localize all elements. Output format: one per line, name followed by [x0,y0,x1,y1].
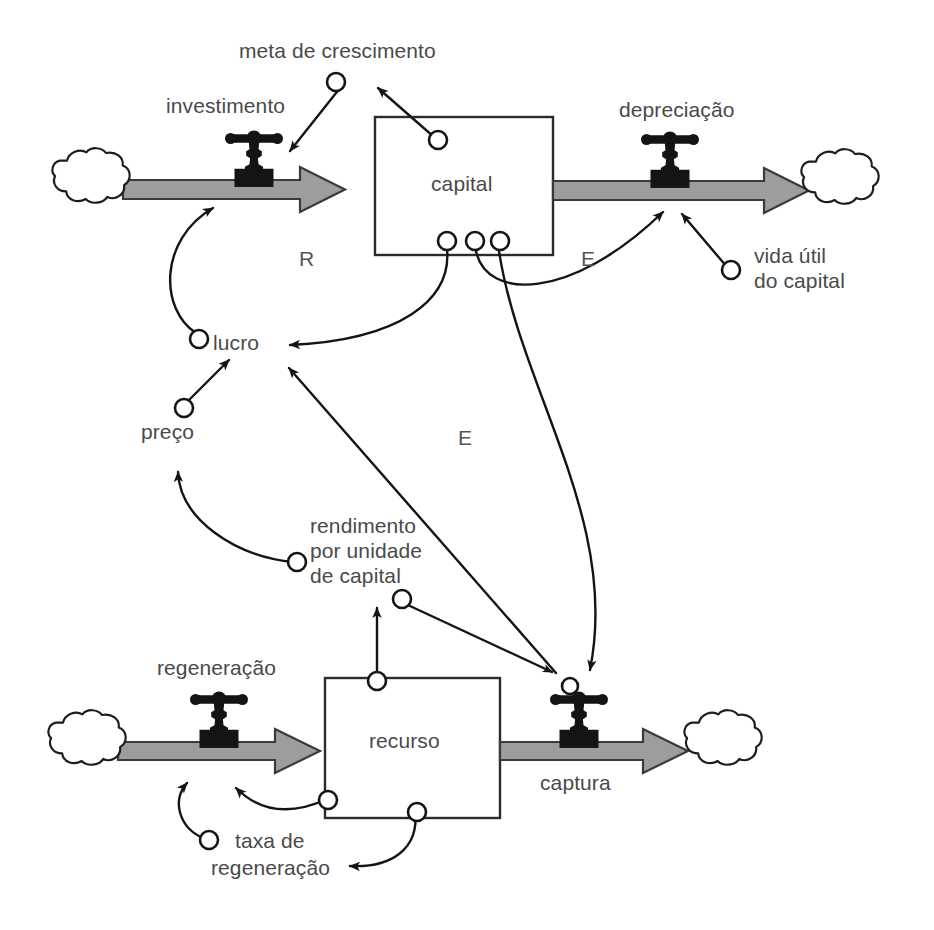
diagram-vector-layer [0,0,934,930]
label-regeneracao: regeneração [157,655,276,680]
node-taxa-de-regeneracao[interactable] [200,831,218,849]
label-rendimento-line1: rendimento [310,513,416,538]
node-preco[interactable] [175,399,193,417]
label-vida-util-do-capital-line2: do capital [754,268,845,293]
link-rendimento-to-preco [178,472,292,562]
label-rendimento-line2: por unidade [310,538,422,563]
label-vida-util-do-capital-line1: vida útil [754,243,826,268]
cloud-sink-depreciacao [801,149,878,204]
node-capital-top[interactable] [429,131,447,149]
label-taxa-de-regeneracao-line1: taxa de [235,828,305,853]
node-rendimento-capital[interactable] [393,590,411,608]
valve-regeneracao [190,691,248,748]
diagram-canvas: meta de crescimento investimento depreci… [0,0,934,930]
link-lucro-to-investimento [170,208,213,333]
link-preco-to-lucro [189,360,229,400]
link-vidautil-to-depreciacao [682,214,727,267]
link-meta-to-investimento [290,88,340,151]
node-vida-util-do-capital[interactable] [722,261,740,279]
valve-investimento [225,130,283,187]
valve-depreciacao [641,131,699,188]
node-capital-bottom-1[interactable] [438,232,456,250]
label-lucro: lucro [213,330,259,355]
label-stock-capital: capital [431,171,492,196]
node-meta-de-crescimento[interactable] [327,73,345,91]
cloud-source-regeneracao [48,710,125,765]
valve-captura [550,691,608,748]
label-investimento: investimento [166,93,285,118]
label-loop-e-middle: E [458,425,472,450]
label-taxa-de-regeneracao-line2: regeneração [211,855,330,880]
node-capital-bottom-3[interactable] [491,232,509,250]
label-captura: captura [540,770,611,795]
node-recurso-bottom-left[interactable] [319,791,337,809]
label-loop-r: R [299,246,314,271]
link-rendimentonode-to-captura [410,606,552,672]
node-rendimento[interactable] [288,553,306,571]
node-lucro[interactable] [190,330,208,348]
node-recurso-top[interactable] [368,672,386,690]
cloud-sink-captura [684,710,761,765]
link-recurso-to-regeneracao [236,788,327,809]
label-preco: preço [141,419,194,444]
node-recurso-bottom[interactable] [408,803,426,821]
flow-pipe-investimento [123,167,345,212]
label-stock-recurso: recurso [369,728,440,753]
cloud-source-investimento [52,148,129,203]
link-capital-to-captura [499,251,596,670]
node-captura-valve[interactable] [562,678,578,694]
link-taxa-to-regeneracao [179,783,205,839]
node-capital-bottom-2[interactable] [466,232,484,250]
label-meta-de-crescimento: meta de crescimento [239,38,436,63]
label-rendimento-line3: de capital [310,563,401,588]
label-depreciacao: depreciação [619,97,735,122]
label-loop-e-right: E [581,246,595,271]
